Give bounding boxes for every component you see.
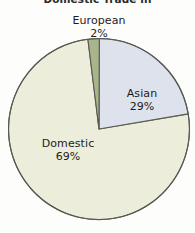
slice-label-european-percent: 2%: [49, 28, 149, 41]
pie-slice-asian[interactable]: [99, 39, 188, 130]
pie-chart-figure: Domestic Trade in European 2% Asian 29% …: [0, 0, 195, 233]
slice-label-asian-percent: 29%: [110, 101, 174, 114]
slice-label-domestic-percent: 69%: [26, 151, 110, 164]
slice-label-domestic-name: Domestic: [42, 137, 95, 150]
slice-label-european: European 2%: [49, 15, 149, 40]
slice-label-asian: Asian 29%: [110, 88, 174, 113]
slice-label-european-name: European: [72, 14, 125, 27]
slice-label-asian-name: Asian: [127, 87, 158, 100]
pie-slices: [8, 39, 189, 220]
slice-label-domestic: Domestic 69%: [26, 138, 110, 163]
